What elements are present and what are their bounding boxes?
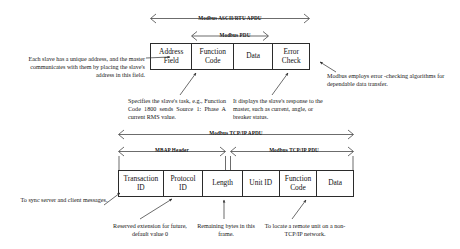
note-address-field: Each slave has a unique address, and the… <box>12 55 145 79</box>
address-field: Address Field <box>151 44 192 69</box>
note-transaction-id: To sync server and client messages. <box>14 196 114 204</box>
note-unit-id: To locate a remote unit on a non-TCP/IP … <box>263 222 347 238</box>
leader-data-field <box>272 73 288 95</box>
leader-protocol-id <box>140 199 172 219</box>
length-field-line1: Length <box>212 179 233 187</box>
diagram-canvas: Modbus ASCII/RTU APDU Modbus PDU Address… <box>0 0 460 249</box>
data-field-tcp-line1: Data <box>328 179 342 187</box>
leader-unit-id <box>292 200 306 219</box>
data-field: Data <box>234 44 274 69</box>
brace-frame-connectors <box>119 156 353 170</box>
leader-function-code <box>180 73 196 95</box>
transaction-id-field: Transaction ID <box>119 171 164 196</box>
tcp-ip-pdu-label: Modbus TCP/IP PDU <box>234 148 354 153</box>
leader-error-check <box>320 62 336 72</box>
tcp-ip-apdu-label: Modbus TCP/IP APDU <box>118 131 354 136</box>
protocol-id-field: Protocol ID <box>164 171 204 196</box>
protocol-id-field-line2: ID <box>179 183 187 192</box>
function-code-field: Function Code <box>192 44 233 69</box>
transaction-id-field-line2: ID <box>137 183 145 192</box>
note-error-check: Modbus employs error -checking algorithm… <box>327 72 455 88</box>
unit-id-field-line1: Unit ID <box>249 179 272 187</box>
data-field-tcp: Data <box>317 171 353 196</box>
note-function-code: Specifies the slave's task, e.g., Functi… <box>128 97 226 121</box>
length-field: Length <box>203 171 243 196</box>
note-protocol-id: Reserved extension for future, default v… <box>110 222 190 238</box>
function-code-field-tcp-line2: Code <box>290 183 306 192</box>
note-length: Remaining bytes in this frame. <box>196 222 256 238</box>
address-field-line2: Field <box>164 56 179 65</box>
ascii-rtu-apdu-label: Modbus ASCII/RTU APDU <box>150 16 310 21</box>
error-check-field-line2: Check <box>282 56 301 65</box>
ascii-rtu-frame: Address Field Function Code Data Error C… <box>150 43 310 70</box>
error-check-field: Error Check <box>273 44 309 69</box>
unit-id-field: Unit ID <box>243 171 280 196</box>
data-field-line1: Data <box>246 52 260 60</box>
modbus-pdu-label: Modbus PDU <box>185 33 285 38</box>
tcp-ip-frame: Transaction ID Protocol ID Length Unit I… <box>118 170 354 197</box>
note-data-response: It displays the slave's response to the … <box>233 97 325 121</box>
mbap-header-label: MBAP Header <box>118 148 226 153</box>
function-code-field-line2: Code <box>205 56 221 65</box>
function-code-field-tcp: Function Code <box>280 171 318 196</box>
